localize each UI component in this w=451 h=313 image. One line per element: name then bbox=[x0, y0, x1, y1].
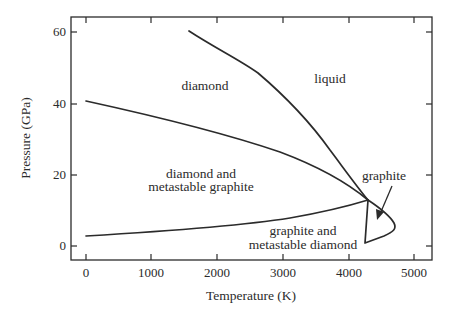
label-liquid: liquid bbox=[314, 71, 346, 86]
x-tick-1000: 1000 bbox=[138, 265, 164, 280]
y-tick-60: 60 bbox=[53, 24, 66, 39]
graphite-field-loop bbox=[365, 200, 395, 243]
phase-boundaries bbox=[86, 31, 395, 243]
label-graphite-and: graphite and bbox=[269, 223, 336, 238]
x-tick-4000: 4000 bbox=[336, 265, 362, 280]
x-tick-5000: 5000 bbox=[401, 265, 427, 280]
x-tick-2000: 2000 bbox=[204, 265, 230, 280]
x-tick-0: 0 bbox=[83, 265, 90, 280]
y-tick-labels: 0 20 40 60 bbox=[53, 24, 66, 253]
phase-diagram: 0 1000 2000 3000 4000 5000 0 20 40 60 Te… bbox=[0, 0, 451, 313]
x-tick-3000: 3000 bbox=[270, 265, 296, 280]
y-tick-20: 20 bbox=[53, 167, 66, 182]
x-tick-labels: 0 1000 2000 3000 4000 5000 bbox=[83, 265, 427, 280]
y-tick-40: 40 bbox=[53, 96, 66, 111]
label-metastable-diamond: metastable diamond bbox=[249, 237, 358, 252]
graphite-pointer-arrow bbox=[376, 186, 392, 220]
label-graphite: graphite bbox=[362, 168, 406, 183]
region-labels: diamond liquid diamond and metastable gr… bbox=[148, 71, 406, 252]
label-diamond: diamond bbox=[181, 78, 228, 93]
label-metastable-graphite: metastable graphite bbox=[148, 179, 253, 194]
x-axis-title: Temperature (K) bbox=[206, 288, 296, 303]
y-tick-0: 0 bbox=[60, 238, 67, 253]
y-axis-title: Pressure (GPa) bbox=[18, 97, 33, 178]
